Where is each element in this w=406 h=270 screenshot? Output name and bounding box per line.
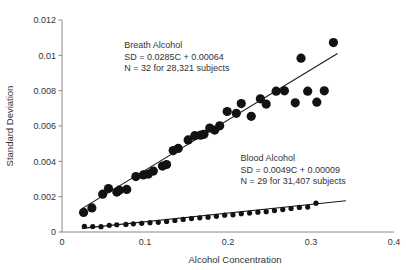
data-point-blood bbox=[239, 211, 244, 216]
data-point-breath bbox=[262, 99, 271, 108]
data-point-blood bbox=[222, 213, 227, 218]
y-tick-label: 0.004 bbox=[33, 157, 56, 167]
data-point-breath bbox=[312, 98, 321, 107]
data-point-breath bbox=[303, 87, 312, 96]
data-point-blood bbox=[156, 220, 161, 225]
annotation-breath-line-1: SD = 0.0285C + 0.00064 bbox=[124, 52, 224, 62]
annotation-blood-line-2: N = 29 for 31,407 subjects bbox=[240, 176, 346, 186]
data-point-breath bbox=[329, 38, 338, 47]
data-point-breath bbox=[237, 99, 246, 108]
data-point-blood bbox=[313, 201, 318, 206]
y-tick-label: 0.002 bbox=[33, 192, 56, 202]
x-tick-label: 0.3 bbox=[305, 237, 318, 247]
data-point-blood bbox=[288, 206, 293, 211]
data-point-breath bbox=[223, 107, 232, 116]
data-point-blood bbox=[280, 207, 285, 212]
data-point-breath bbox=[104, 184, 113, 193]
data-point-blood bbox=[305, 204, 310, 209]
y-tick-label: 0.006 bbox=[33, 121, 56, 131]
y-tick-label: 0 bbox=[51, 227, 56, 237]
data-point-blood bbox=[247, 210, 252, 215]
data-point-blood bbox=[139, 221, 144, 226]
data-point-blood bbox=[114, 222, 119, 227]
data-point-breath bbox=[122, 185, 131, 194]
annotation-blood-line-1: SD = 0.0049C + 0.00009 bbox=[240, 165, 340, 175]
data-point-breath bbox=[215, 121, 224, 130]
data-point-breath bbox=[272, 87, 281, 96]
data-point-blood bbox=[90, 224, 95, 229]
data-point-breath bbox=[291, 98, 300, 107]
data-point-blood bbox=[164, 219, 169, 224]
x-tick-label: 0.4 bbox=[388, 237, 401, 247]
chart-container: 00.0020.0040.0060.0080.010.012 00.10.20.… bbox=[0, 0, 406, 270]
x-tick-label: 0.1 bbox=[139, 237, 152, 247]
data-point-blood bbox=[272, 208, 277, 213]
data-point-breath bbox=[320, 86, 329, 95]
annotation-breath-line-0: Breath Alcohol bbox=[124, 40, 182, 50]
data-point-breath bbox=[174, 144, 183, 153]
y-tick-label: 0.01 bbox=[38, 51, 56, 61]
x-axis-title: Alcohol Concentration bbox=[189, 254, 282, 265]
x-tick-label: 0 bbox=[59, 237, 64, 247]
data-point-breath bbox=[232, 109, 241, 118]
annotation-breath-line-2: N = 32 for 28,321 subjects bbox=[124, 63, 230, 73]
data-point-blood bbox=[181, 217, 186, 222]
y-axis-title: Standard Deviation bbox=[4, 86, 15, 167]
data-point-breath bbox=[280, 86, 289, 95]
data-point-blood bbox=[189, 216, 194, 221]
data-point-blood bbox=[205, 215, 210, 220]
y-tick-label: 0.008 bbox=[33, 86, 56, 96]
data-point-breath bbox=[162, 160, 171, 169]
data-point-breath bbox=[87, 203, 96, 212]
data-point-breath bbox=[79, 208, 88, 217]
data-point-blood bbox=[214, 214, 219, 219]
data-point-blood bbox=[197, 215, 202, 220]
data-point-breath bbox=[296, 54, 305, 63]
data-point-blood bbox=[264, 209, 269, 214]
data-point-blood bbox=[230, 212, 235, 217]
data-point-blood bbox=[255, 210, 260, 215]
data-point-breath bbox=[149, 166, 158, 175]
annotation-blood-line-0: Blood Alcohol bbox=[240, 153, 295, 163]
data-point-blood bbox=[297, 205, 302, 210]
data-point-blood bbox=[131, 221, 136, 226]
data-point-blood bbox=[172, 218, 177, 223]
data-point-blood bbox=[147, 220, 152, 225]
data-point-blood bbox=[123, 222, 128, 227]
x-tick-label: 0.2 bbox=[222, 237, 235, 247]
y-tick-label: 0.012 bbox=[33, 15, 56, 25]
data-point-breath bbox=[247, 112, 256, 121]
data-point-blood bbox=[98, 224, 103, 229]
scatter-chart: 00.0020.0040.0060.0080.010.012 00.10.20.… bbox=[0, 0, 406, 270]
data-point-blood bbox=[82, 224, 87, 229]
data-point-blood bbox=[107, 223, 112, 228]
